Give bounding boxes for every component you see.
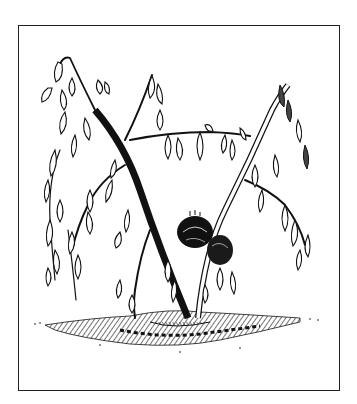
dark-fruit	[177, 210, 233, 265]
wilting-plant-illustration	[0, 0, 357, 404]
plant-stems	[50, 58, 305, 319]
soil-mound	[34, 311, 319, 353]
wilted-leaves	[42, 62, 310, 313]
